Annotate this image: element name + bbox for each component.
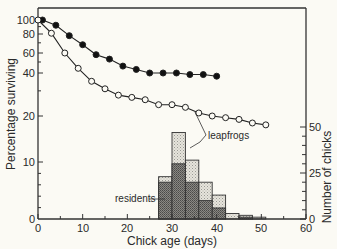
y-axis-label: Percentage surviving <box>4 58 18 170</box>
svg-text:leapfrogs: leapfrogs <box>208 130 249 141</box>
right-axis-ticks <box>300 127 306 219</box>
svg-text:10: 10 <box>77 222 89 234</box>
svg-text:0: 0 <box>309 213 315 225</box>
residents-annotation: residents <box>115 193 165 204</box>
svg-text:20: 20 <box>121 222 133 234</box>
residents-survival-curve <box>39 17 219 79</box>
svg-text:40: 40 <box>211 222 223 234</box>
svg-text:0: 0 <box>29 213 35 225</box>
x-tick-labels: 0 10 20 30 40 50 60 <box>35 222 312 234</box>
y2-axis-label: Number of chicks <box>320 131 334 224</box>
svg-text:40: 40 <box>23 67 35 79</box>
svg-text:50: 50 <box>255 222 267 234</box>
survival-chart: 0 10 20 30 40 50 60 0 10 20 40 60 80 100… <box>0 0 337 249</box>
svg-text:80: 80 <box>23 28 35 40</box>
svg-text:100: 100 <box>17 14 35 26</box>
y-tick-labels: 0 10 20 40 60 80 100 <box>17 14 35 225</box>
svg-text:20: 20 <box>23 110 35 122</box>
svg-text:residents: residents <box>115 193 156 204</box>
svg-text:0: 0 <box>35 222 41 234</box>
x-axis-label: Chick age (days) <box>127 234 217 248</box>
y-axis-ticks <box>38 20 43 208</box>
svg-text:10: 10 <box>23 156 35 168</box>
svg-text:30: 30 <box>166 222 178 234</box>
svg-text:60: 60 <box>23 47 35 59</box>
